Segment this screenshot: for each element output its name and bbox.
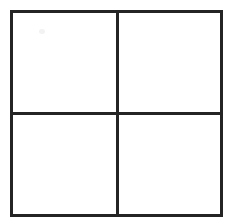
two-by-two-grid <box>10 10 223 217</box>
grid-cell-bottom-right[interactable] <box>119 115 220 214</box>
grid-cell-bottom-left[interactable] <box>13 115 119 214</box>
scan-artifact-smudge <box>39 29 45 34</box>
grid-cell-top-right[interactable] <box>119 13 220 115</box>
grid-cell-top-left[interactable] <box>13 13 119 115</box>
page-canvas <box>0 0 235 223</box>
